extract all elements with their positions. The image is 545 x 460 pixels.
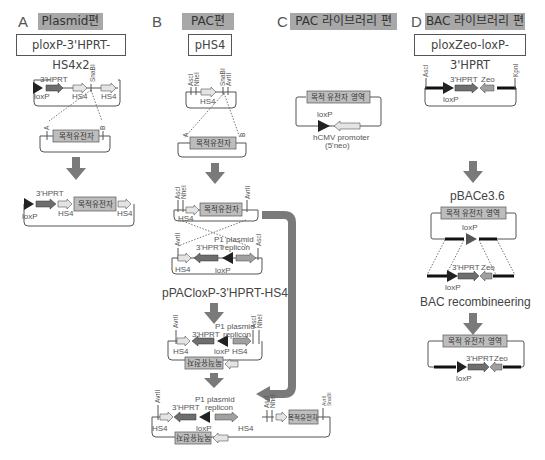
curved-arrow-icon — [262, 215, 292, 394]
replicon-arrow-icon — [236, 253, 256, 263]
replicon-label: replicon — [222, 243, 250, 252]
replicon-arrow-icon — [215, 412, 238, 422]
zeo-arrow-icon — [480, 271, 492, 281]
loxp-label: loxP — [215, 266, 231, 275]
hprt-label: 3'HPRT — [196, 243, 224, 252]
hs4-arrow-icon — [276, 412, 287, 422]
avrii-label: AvrII — [154, 390, 161, 403]
nhei-label: NheI — [180, 185, 187, 199]
hprt-label: 3'HPRT — [36, 189, 64, 198]
hs4-label: HS4 — [72, 92, 88, 101]
loxp-icon — [466, 233, 477, 245]
hprt-arrow-icon — [194, 253, 218, 263]
hprt-label: 3'HPRT — [40, 75, 68, 84]
hs4-label: HS4 — [173, 347, 189, 356]
neo-label: (5'neo) — [325, 141, 350, 150]
replicon-label: replicon — [205, 403, 233, 412]
nhei-label: NheI — [269, 394, 276, 408]
avrii-label: AvrII — [172, 315, 179, 328]
snabi-label: SnaBI — [326, 392, 332, 406]
down-arrow-icon — [204, 373, 224, 388]
kpni-label: KpnI — [512, 63, 520, 77]
site-a-label: A — [43, 125, 50, 130]
hs4-arrow-icon — [213, 433, 228, 443]
loxp-label: loxP — [462, 223, 478, 232]
loxp-icon — [199, 411, 210, 423]
hprt-arrow-icon — [458, 271, 479, 281]
hs4-label: HS4 — [101, 92, 117, 101]
hs4-label: HS4 — [232, 347, 248, 356]
zeo-label: Zeo — [494, 354, 508, 363]
target-gene-label: 목적유전자 — [78, 199, 113, 209]
loxp-icon — [318, 120, 330, 132]
avrii-label: AvrII — [174, 233, 181, 246]
hs4-label: HS4 — [117, 209, 133, 218]
hs4-label: HS4 — [152, 424, 168, 433]
hprt-arrow-icon — [174, 412, 196, 422]
panel-d-diagram: AscI KpnI 3'HPRT Zeo loxP pBACe3.6 목적 유전… — [420, 63, 531, 383]
hs4-label: HS4 — [238, 424, 254, 433]
hs4-arrow-icon — [118, 199, 131, 209]
zeo-label: Zeo — [481, 263, 495, 272]
panel-c-diagram: 목적 유전자 영역 loxP hCMV promoter (5'neo) — [296, 91, 381, 150]
target-gene-label: 목적유전자 — [59, 131, 94, 141]
down-arrow-icon — [463, 161, 483, 183]
hprt-arrow-icon — [468, 362, 489, 372]
zeo-label: Zeo — [481, 75, 495, 84]
loxp-label: loxP — [443, 95, 459, 104]
asci-label: AscI — [422, 64, 429, 77]
target-gene-reverse-label: 목적유전자 — [187, 358, 222, 368]
target-gene-label: 목적유전자 — [196, 138, 231, 148]
loxp-label: loxP — [456, 374, 472, 383]
snabi-label: SnaBI — [89, 64, 96, 82]
hprt-arrow-icon — [455, 83, 478, 93]
zeo-arrow-icon — [490, 362, 502, 372]
target-region-label: 목적 유전자 영역 — [448, 336, 502, 346]
site-b-label: B — [239, 133, 246, 137]
hs4-arrow-icon — [177, 336, 190, 346]
site-a-label: A — [182, 132, 189, 137]
target-gene-label: 목적유전자 — [288, 413, 318, 422]
asci-label: AscI — [255, 233, 262, 246]
hcmv-promoter-arrow-icon — [334, 121, 360, 131]
target-region-label: 목적 유전자 영역 — [311, 92, 365, 102]
loxp-label: loxP — [196, 424, 212, 433]
down-arrow-icon — [66, 157, 86, 180]
bac-recombineering-label: BAC recombineering — [420, 295, 531, 309]
loxp-label: loxP — [22, 212, 38, 221]
loxp-label: loxP — [34, 92, 50, 101]
avrii-label: AvrII — [225, 73, 232, 86]
down-arrow-icon — [204, 303, 224, 324]
replicon-label: replicon — [223, 330, 251, 339]
hs4-label: HS4 — [58, 209, 74, 218]
pac-vector-name: pPACloxP-3'HPRT-HS4 — [162, 286, 288, 300]
panel-b-diagram: AscI NheI SnaBI AvrII HS4 A B 목적유전자 AscI… — [152, 68, 332, 444]
panel-a-diagram: 3'HPRT loxP HS4 HS4 SnaBI A B 목적유전자 목적유전… — [22, 64, 134, 226]
site-b-label: B — [99, 126, 106, 130]
loxp-label: loxP — [214, 347, 230, 356]
hs4-arrow-icon — [58, 199, 72, 209]
hprt-label: 3'HPRT — [452, 263, 480, 272]
hprt-arrow-icon — [36, 199, 56, 209]
loxp-label: loxP — [317, 110, 333, 119]
target-gene-reverse-label: 목적유전자 — [176, 433, 211, 443]
hs4-arrow-icon — [178, 253, 191, 263]
hprt-label: 3'HPRT — [466, 354, 494, 363]
target-region-label: 목적 유전자 영역 — [446, 208, 500, 218]
loxp-icon — [222, 252, 233, 264]
target-gene-label: 목적유전자 — [204, 204, 239, 214]
down-arrow-icon — [463, 313, 483, 335]
bac-vector-name: pBACe3.6 — [450, 189, 505, 203]
hs4-arrow-icon — [201, 87, 216, 97]
nhei-label: NheI — [193, 72, 200, 86]
hprt-label: 3'HPRT — [172, 403, 200, 412]
hs4-label: HS4 — [178, 214, 194, 223]
avrii-label: AvrII — [244, 186, 251, 199]
hs4-arrow-icon — [160, 412, 173, 422]
diagram-canvas: 3'HPRT loxP HS4 HS4 SnaBI A B 목적유전자 목적유전… — [0, 0, 545, 460]
nhei-label: NheI — [256, 314, 263, 328]
loxp-label: loxP — [445, 283, 461, 292]
hprt-label: 3'HPRT — [450, 75, 478, 84]
down-arrow-icon — [205, 163, 225, 184]
hprt-label: 3'HPRT — [192, 330, 220, 339]
